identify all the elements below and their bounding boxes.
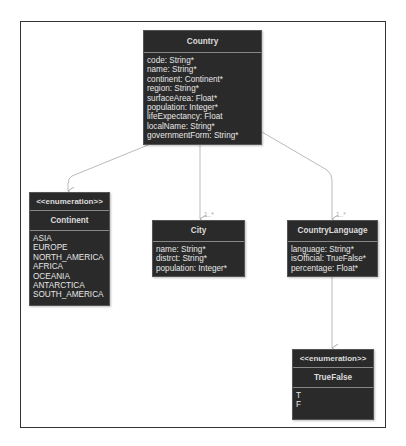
enum-continent-stereotype: <<enumeration>> bbox=[30, 193, 109, 211]
attribute: distrct: String* bbox=[156, 254, 241, 263]
enum-literal: AFRICA bbox=[33, 262, 106, 271]
attribute: language: String* bbox=[291, 245, 374, 254]
attribute: lifeExpectancy: Float bbox=[147, 112, 258, 121]
enum-continent-name: Continent bbox=[30, 211, 109, 231]
enum-literal: NORTH_AMERICA bbox=[33, 253, 106, 262]
attribute: governmentForm: String* bbox=[147, 131, 258, 140]
class-city-name: City bbox=[153, 221, 244, 242]
enum-continent-literals: ASIA EUROPE NORTH_AMERICA AFRICA OCEANIA… bbox=[30, 231, 109, 302]
attribute: name: String* bbox=[147, 65, 258, 74]
class-city[interactable]: City name: String* distrct: String* popu… bbox=[152, 220, 245, 277]
attribute: name: String* bbox=[156, 245, 241, 254]
class-country-attributes: code: String* name: String* continent: C… bbox=[144, 53, 261, 143]
attribute: percentage: Float* bbox=[291, 264, 374, 273]
attribute: population: Integer* bbox=[147, 103, 258, 112]
enum-truefalse-literals: T F bbox=[293, 388, 373, 412]
attribute: continent: Continent* bbox=[147, 75, 258, 84]
attribute: code: String* bbox=[147, 56, 258, 65]
enum-literal: ASIA bbox=[33, 234, 106, 243]
enum-literal: ANTARCTICA bbox=[33, 281, 106, 290]
class-country-name: Country bbox=[144, 31, 261, 53]
enum-truefalse-name: TrueFalse bbox=[293, 368, 373, 388]
multiplicity-city: 1..* bbox=[204, 211, 214, 218]
enum-literal: T bbox=[296, 391, 370, 400]
enum-continent[interactable]: <<enumeration>> Continent ASIA EUROPE NO… bbox=[29, 192, 110, 306]
class-countrylanguage-attributes: language: String* isOfficial: TrueFalse*… bbox=[288, 242, 377, 275]
enum-literal: F bbox=[296, 400, 370, 409]
attribute: surfaceArea: Float* bbox=[147, 94, 258, 103]
attribute: localName: String* bbox=[147, 122, 258, 131]
class-countrylanguage-name: CountryLanguage bbox=[288, 221, 377, 242]
enum-literal: SOUTH_AMERICA bbox=[33, 290, 106, 299]
attribute: isOfficial: TrueFalse* bbox=[291, 254, 374, 263]
enum-literal: EUROPE bbox=[33, 243, 106, 252]
class-countrylanguage[interactable]: CountryLanguage language: String* isOffi… bbox=[287, 220, 378, 277]
class-city-attributes: name: String* distrct: String* populatio… bbox=[153, 242, 244, 275]
attribute: population: Integer* bbox=[156, 264, 241, 273]
enum-literal: OCEANIA bbox=[33, 272, 106, 281]
attribute: region: String* bbox=[147, 84, 258, 93]
enum-truefalse[interactable]: <<enumeration>> TrueFalse T F bbox=[292, 349, 374, 420]
class-country[interactable]: Country code: String* name: String* cont… bbox=[143, 30, 262, 145]
multiplicity-countrylanguage: 1..* bbox=[336, 211, 346, 218]
enum-truefalse-stereotype: <<enumeration>> bbox=[293, 350, 373, 368]
